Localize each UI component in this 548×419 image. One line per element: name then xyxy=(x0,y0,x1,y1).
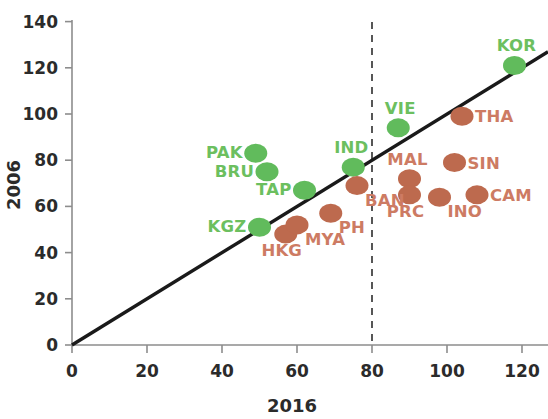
y-tick-label: 20 xyxy=(34,289,58,309)
x-tick-label: 120 xyxy=(504,361,540,381)
x-tick-label: 0 xyxy=(66,361,78,381)
data-point-pak[interactable] xyxy=(244,144,267,163)
y-tick-label: 0 xyxy=(46,335,58,355)
y-tick-label: 100 xyxy=(23,104,59,124)
x-tick-labels: 020406080100120 xyxy=(66,361,540,381)
x-axis-title: 2016 xyxy=(267,395,317,416)
y-tick-label: 40 xyxy=(34,243,58,263)
y-tick-labels: 020406080100120140 xyxy=(23,12,59,355)
plot-canvas: 020406080100120140 020406080100120 PAKBR… xyxy=(0,0,548,419)
data-point-kgz[interactable] xyxy=(248,218,271,237)
data-point-ind[interactable] xyxy=(342,158,365,177)
data-points-layer xyxy=(244,56,526,244)
data-point-sin[interactable] xyxy=(443,153,466,172)
x-tick-label: 100 xyxy=(429,361,465,381)
point-label-tha: THA xyxy=(475,107,513,126)
y-axis-ticks xyxy=(65,22,72,345)
data-point-mal[interactable] xyxy=(398,169,421,188)
point-label-hkg: HKG xyxy=(261,241,302,260)
point-label-prc: PRC xyxy=(387,202,425,221)
data-point-kor[interactable] xyxy=(503,56,526,75)
data-point-vie[interactable] xyxy=(387,118,410,137)
x-axis-ticks xyxy=(72,345,522,353)
x-tick-label: 40 xyxy=(210,361,234,381)
x-tick-label: 80 xyxy=(360,361,384,381)
point-label-kgz: KGZ xyxy=(208,217,247,236)
y-tick-label: 60 xyxy=(34,196,58,216)
point-label-tap: TAP xyxy=(256,180,291,199)
point-label-cam: CAM xyxy=(490,186,532,205)
y-tick-label: 80 xyxy=(34,150,58,170)
point-label-mal: MAL xyxy=(387,150,428,169)
x-tick-label: 60 xyxy=(285,361,309,381)
data-point-tha[interactable] xyxy=(451,107,474,126)
y-tick-label: 120 xyxy=(23,58,59,78)
point-label-bru: BRU xyxy=(215,162,254,181)
point-label-ino: INO xyxy=(448,202,483,221)
point-label-ind: IND xyxy=(334,138,368,157)
point-label-ph: PH xyxy=(339,218,365,237)
data-point-bru[interactable] xyxy=(256,162,279,181)
y-tick-label: 140 xyxy=(23,12,59,32)
point-label-vie: VIE xyxy=(385,99,416,118)
point-label-sin: SIN xyxy=(468,154,500,173)
x-tick-label: 20 xyxy=(135,361,159,381)
point-label-pak: PAK xyxy=(206,143,244,162)
point-label-kor: KOR xyxy=(497,36,536,55)
data-point-tap[interactable] xyxy=(293,181,316,200)
scatter-chart: 020406080100120140 020406080100120 PAKBR… xyxy=(0,0,548,419)
y-axis-title: 2006 xyxy=(3,160,24,210)
